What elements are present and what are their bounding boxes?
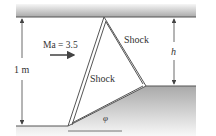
bottom-wall-wedge (16, 86, 196, 136)
label-1m: 1 m (14, 64, 30, 75)
dimension-h: h (171, 19, 176, 84)
mach-label-group: Ma = 3.5 (43, 40, 78, 55)
label-shock-upper: Shock (124, 34, 149, 45)
shock-diagram: 1 m h Ma = 3.5 Shock Shock φ (0, 0, 216, 136)
label-mach: Ma = 3.5 (43, 40, 78, 50)
top-wall (16, 4, 196, 17)
dimension-1m: 1 m (14, 19, 30, 124)
label-shock-inner: Shock (90, 73, 115, 84)
label-h: h (171, 46, 176, 57)
label-angle-phi: φ (103, 113, 108, 123)
